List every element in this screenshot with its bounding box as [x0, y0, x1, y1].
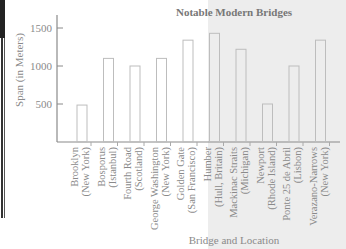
category-label: Verazano-Narrows — [308, 147, 319, 226]
category-label: (Michigan) — [239, 147, 251, 195]
x-axis-title: Bridge and Location — [189, 234, 280, 246]
category-label: (Lisbon) — [292, 147, 304, 184]
category-label: Brooklyn — [69, 146, 80, 186]
bar — [183, 40, 193, 142]
y-tick-label: 1000 — [30, 60, 53, 72]
bar — [104, 58, 114, 142]
category-label: (New York) — [319, 147, 331, 197]
category-label: (Istanbul) — [107, 147, 119, 188]
category-label: Ponte 25 de Abril — [281, 147, 292, 221]
bar — [210, 33, 220, 142]
category-labels: Brooklyn(New York)Bosporus(Istanbul)Four… — [69, 146, 331, 230]
category-label: Newport — [255, 147, 266, 184]
bar — [157, 58, 167, 142]
bar — [263, 104, 273, 142]
category-label: Golden Gate — [175, 147, 186, 201]
category-label: (New York) — [80, 147, 92, 197]
bars — [77, 33, 326, 142]
bar — [130, 66, 140, 142]
category-label: Fourth Road — [122, 146, 133, 200]
category-label: (Hull, Britain) — [213, 147, 225, 208]
chart-title: Notable Modern Bridges — [176, 6, 293, 18]
bar — [77, 105, 87, 142]
category-label: George Washington — [149, 146, 160, 230]
category-label: (Scotland) — [133, 147, 145, 191]
bar — [236, 49, 246, 142]
y-tick-label: 500 — [36, 98, 53, 110]
category-label: Humber — [202, 147, 213, 182]
category-label: (New York) — [160, 147, 172, 197]
category-label: (Rhode Island) — [266, 147, 278, 210]
category-label: Bosporus — [96, 147, 107, 187]
bar — [316, 40, 326, 142]
y-tick-label: 1500 — [30, 22, 53, 34]
bar — [289, 66, 299, 142]
category-label: Mackinac Straits — [228, 147, 239, 218]
y-axis-title: Span (in Meters) — [13, 33, 26, 107]
category-label: (San Francisco) — [186, 147, 198, 214]
bar-chart: Notable Modern Bridges Span (in Meters) … — [0, 0, 346, 249]
